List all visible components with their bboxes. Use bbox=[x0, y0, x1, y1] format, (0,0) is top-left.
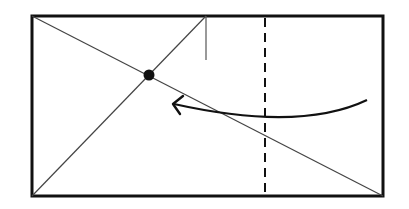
origami-diagram bbox=[0, 0, 409, 209]
diagram-canvas bbox=[0, 0, 409, 209]
reference-point-icon bbox=[144, 70, 155, 81]
